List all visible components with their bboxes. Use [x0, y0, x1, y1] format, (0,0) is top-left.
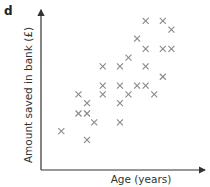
- x-marker: [160, 74, 166, 80]
- x-marker: [117, 119, 123, 125]
- x-marker: [151, 91, 157, 97]
- y-axis-label: Amount saved in bank (£): [22, 27, 34, 163]
- x-marker: [84, 100, 90, 106]
- x-axis-label: Age (years): [0, 173, 210, 185]
- x-marker: [160, 46, 166, 52]
- x-marker: [58, 128, 64, 134]
- data-points: [58, 18, 174, 143]
- x-marker: [126, 91, 132, 97]
- x-marker: [168, 46, 174, 52]
- x-marker: [100, 91, 106, 97]
- x-marker: [75, 110, 81, 116]
- x-marker: [134, 83, 140, 89]
- x-marker: [117, 100, 123, 106]
- x-marker: [168, 27, 174, 33]
- x-marker: [143, 63, 149, 69]
- x-marker: [117, 63, 123, 69]
- x-marker: [91, 119, 97, 125]
- x-marker: [126, 55, 132, 61]
- x-marker: [84, 137, 90, 143]
- x-marker: [143, 18, 149, 24]
- x-marker: [84, 110, 90, 116]
- x-marker: [160, 18, 166, 24]
- x-marker: [75, 91, 81, 97]
- x-marker: [134, 36, 140, 42]
- x-marker: [117, 83, 123, 89]
- x-marker: [100, 63, 106, 69]
- x-marker: [143, 46, 149, 52]
- x-marker: [143, 83, 149, 89]
- x-marker: [100, 83, 106, 89]
